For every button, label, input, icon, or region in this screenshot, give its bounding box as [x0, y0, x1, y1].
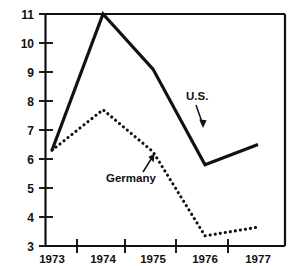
- annotation-label-germany: Germany: [106, 172, 156, 184]
- y-tick-label-6: 6: [27, 153, 34, 167]
- y-tick-label-4: 4: [27, 211, 34, 225]
- annotation-label-us: U.S.: [186, 90, 208, 102]
- x-tick-label-1974: 1974: [90, 253, 116, 265]
- series-group: [52, 14, 258, 236]
- annotation-us: U.S.: [186, 90, 208, 128]
- plot-frame: [46, 14, 286, 246]
- x-tick-label-1973: 1973: [39, 253, 65, 265]
- x-tick-label-1976: 1976: [192, 253, 218, 265]
- x-tick-label-1977: 1977: [245, 253, 271, 265]
- y-axis-tick-labels: 11 10 9 8 7 6 5 4 3: [21, 8, 35, 254]
- chart-canvas: 11 10 9 8 7 6 5 4 3 1973 1974 1975 1976 …: [0, 0, 293, 266]
- y-tick-label-10: 10: [21, 37, 35, 51]
- y-tick-label-7: 7: [27, 124, 34, 138]
- y-tick-label-5: 5: [27, 182, 34, 196]
- annotation-germany: Germany: [106, 153, 156, 184]
- x-axis-tick-labels: 1973 1974 1975 1976 1977: [39, 253, 271, 265]
- y-tick-label-9: 9: [27, 66, 34, 80]
- y-tick-label-11: 11: [21, 8, 34, 22]
- y-tick-label-8: 8: [27, 95, 34, 109]
- x-tick-label-1975: 1975: [140, 253, 166, 265]
- series-line-us: [52, 14, 258, 165]
- annotation-arrowhead-us: [199, 120, 206, 128]
- line-chart-figure: 11 10 9 8 7 6 5 4 3 1973 1974 1975 1976 …: [0, 0, 293, 266]
- y-tick-label-3: 3: [27, 240, 34, 254]
